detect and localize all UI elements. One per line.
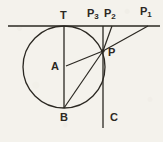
- label-B: B: [60, 112, 68, 123]
- diagram-canvas: [0, 0, 163, 142]
- label-P1-subscript: 1: [147, 10, 151, 19]
- label-A: A: [51, 61, 59, 72]
- label-P3-subscript: 3: [94, 12, 98, 21]
- label-P2-subscript: 2: [111, 12, 115, 21]
- label-P2: P2: [104, 8, 116, 19]
- label-P1: P1: [140, 6, 152, 17]
- geometry-figure: T A B C P P3 P2 P1: [0, 0, 163, 142]
- point-p-marker: [101, 49, 104, 52]
- label-P3: P3: [87, 8, 99, 19]
- label-T: T: [60, 10, 67, 21]
- label-P: P: [108, 47, 115, 58]
- label-C: C: [110, 112, 118, 123]
